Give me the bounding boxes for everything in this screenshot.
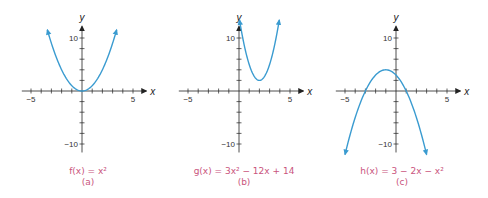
y-axis-label: y xyxy=(393,12,400,23)
x-tick-label-neg5: −5 xyxy=(26,95,36,104)
caption-letter-a: (a) xyxy=(8,177,168,188)
panel-c: −5510−10xy xyxy=(336,12,470,154)
panel-b: −5510−10xy xyxy=(179,12,313,152)
axes-c: −5510−10xy xyxy=(336,12,470,152)
curve-g xyxy=(240,20,280,80)
x-tick-label-neg5: −5 xyxy=(340,95,350,104)
caption-letter-b: (b) xyxy=(164,177,324,188)
panel-a: −5510−10xy xyxy=(22,12,156,152)
y-tick-label-neg10: −10 xyxy=(221,140,235,149)
caption-formula-a: f(x) = x² xyxy=(69,166,107,176)
caption-c: h(x) = 3 − 2x − x² (c) xyxy=(322,166,482,188)
caption-formula-c: h(x) = 3 − 2x − x² xyxy=(360,166,444,176)
y-tick-label-10: 10 xyxy=(226,34,235,43)
caption-formula-b: g(x) = 3x² − 12x + 14 xyxy=(194,166,295,176)
x-tick-label-5: 5 xyxy=(131,95,136,104)
caption-b: g(x) = 3x² − 12x + 14 (b) xyxy=(164,166,324,188)
x-axis-label: x xyxy=(463,86,470,97)
caption-a: f(x) = x² (a) xyxy=(8,166,168,188)
y-tick-label-neg10: −10 xyxy=(64,140,78,149)
y-tick-label-neg10: −10 xyxy=(378,140,392,149)
y-axis-label: y xyxy=(236,12,243,23)
x-tick-label-5: 5 xyxy=(288,95,293,104)
caption-letter-c: (c) xyxy=(322,177,482,188)
axes-b: −5510−10xy xyxy=(179,12,313,152)
y-tick-label-10: 10 xyxy=(69,34,78,43)
axes-a: −5510−10xy xyxy=(22,12,156,152)
x-tick-label-5: 5 xyxy=(445,95,450,104)
x-tick-label-neg5: −5 xyxy=(183,95,193,104)
x-axis-label: x xyxy=(149,86,156,97)
y-axis-label: y xyxy=(79,12,86,23)
y-tick-label-10: 10 xyxy=(383,34,392,43)
x-axis-label: x xyxy=(306,86,313,97)
